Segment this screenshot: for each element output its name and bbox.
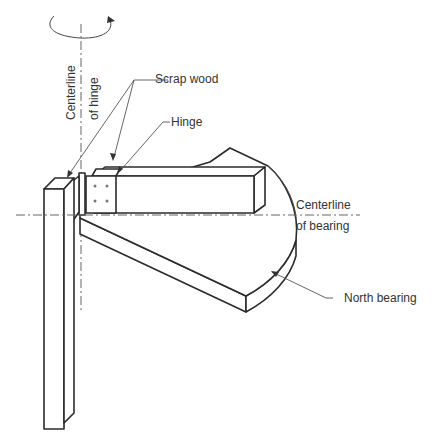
hinge-bearing-diagram: Centerline of hinge Scrap wood Hinge Cen…: [0, 0, 434, 436]
hinge-plate: [79, 173, 116, 215]
centerline-of-bearing-label-1: Centerline: [296, 198, 351, 212]
rotation-arrow-icon: [50, 16, 115, 38]
horizontal-arm: [94, 167, 265, 213]
centerline-of-hinge-label: Centerline of hinge: [64, 65, 101, 120]
vertical-post: [44, 178, 74, 429]
scrap-wood-block-arm: [92, 169, 120, 176]
scrap-wood-label: Scrap wood: [155, 72, 218, 86]
svg-text:of hinge: of hinge: [87, 77, 101, 120]
hinge-label: Hinge: [171, 115, 203, 129]
svg-text:Centerline: Centerline: [64, 65, 78, 120]
centerline-of-bearing-label-2: of bearing: [296, 219, 349, 233]
north-bearing-label: North bearing: [344, 291, 417, 305]
